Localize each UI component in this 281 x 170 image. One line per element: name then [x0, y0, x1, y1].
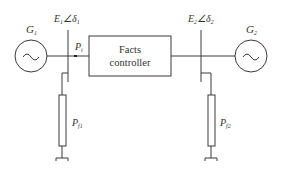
generator-g2-circle: [235, 40, 267, 72]
load-2-feeder: [201, 73, 211, 95]
bus-2-voltage-label: E2∠δ2: [187, 13, 214, 25]
ac-sine-icon: [23, 54, 39, 60]
load-2: Pf2: [201, 73, 231, 161]
power-flow-label: Pt: [74, 41, 83, 53]
load-1-feeder: [62, 73, 68, 95]
generator-g2: G2: [235, 23, 267, 72]
load-1: Pf1: [56, 73, 83, 161]
load-2-resistor: [208, 95, 215, 146]
power-flow-arrow-icon: [74, 55, 77, 57]
bus-1-voltage-label: E1∠δ1: [53, 13, 80, 25]
load-2-label: Pf2: [219, 117, 231, 129]
facts-controller-label-line1: Facts: [119, 44, 141, 55]
generator-g1-circle: [15, 40, 47, 72]
generator-g2-label: G2: [246, 23, 257, 36]
ac-sine-icon: [243, 54, 259, 60]
load-1-label: Pf1: [71, 117, 83, 129]
ground-icon: [205, 158, 217, 161]
facts-controller-label-line2: controller: [110, 57, 151, 68]
facts-controller: Facts controller: [89, 36, 171, 76]
facts-power-system-diagram: G1 E1∠δ1 Pt Facts controller E2∠δ2 G2 Pf…: [0, 0, 281, 170]
load-1-resistor: [59, 95, 66, 146]
ground-icon: [56, 158, 68, 161]
facts-controller-box: [89, 36, 171, 76]
generator-g1: G1: [15, 23, 47, 72]
generator-g1-label: G1: [26, 23, 37, 36]
